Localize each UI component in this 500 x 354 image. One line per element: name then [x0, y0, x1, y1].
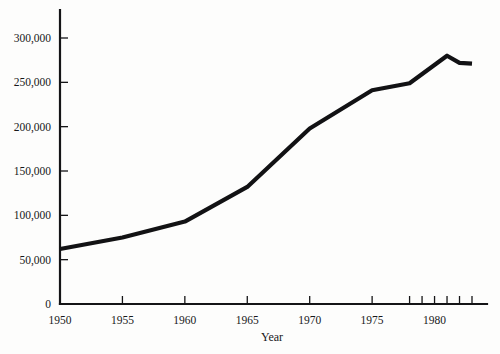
- x-tick-label: 1975: [361, 314, 384, 326]
- x-tick-labels: 1950195519601965197019751980: [49, 314, 447, 326]
- y-tick-label: 200,000: [14, 121, 52, 134]
- x-tick-label: 1955: [111, 314, 134, 326]
- y-tick-label: 0: [45, 298, 51, 310]
- data-line-series-1: [60, 56, 472, 249]
- y-tick-label: 300,000: [14, 32, 52, 45]
- y-tick-label: 150,000: [14, 165, 52, 178]
- y-tick-labels: 050,000100,000150,000200,000250,000300,0…: [14, 32, 52, 310]
- data-series-group: [60, 56, 472, 249]
- y-tick-label: 50,000: [19, 254, 51, 267]
- x-tick-label: 1970: [298, 314, 321, 326]
- x-axis-title: Year: [261, 330, 283, 344]
- x-tick-label: 1950: [49, 314, 72, 326]
- x-tick-label: 1980: [423, 314, 446, 326]
- y-tick-label: 100,000: [14, 209, 52, 222]
- line-chart-plot: 050,000100,000150,000200,000250,000300,0…: [0, 0, 500, 354]
- x-tick-label: 1965: [236, 314, 259, 326]
- x-tick-label: 1960: [173, 314, 196, 326]
- chart-container: 050,000100,000150,000200,000250,000300,0…: [0, 0, 500, 354]
- y-tick-label: 250,000: [14, 76, 52, 89]
